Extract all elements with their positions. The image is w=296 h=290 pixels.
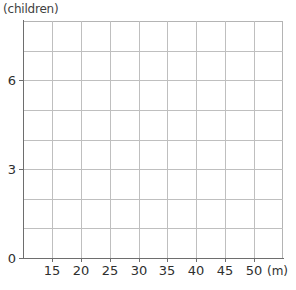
x-axis-line <box>22 258 284 259</box>
y-axis-tick <box>19 80 23 81</box>
y-axis-tick <box>19 169 23 170</box>
x-axis-tick-label: 15 <box>37 264 67 277</box>
plot-top-border <box>23 21 283 22</box>
gridline-horizontal <box>23 228 283 229</box>
gridline-horizontal <box>23 51 283 52</box>
x-axis-tick <box>167 258 168 262</box>
gridline-horizontal <box>23 199 283 200</box>
y-axis-unit-label: (children) <box>3 2 59 16</box>
grid-chart: (children) 036 1520253035404550 (m) <box>0 0 296 290</box>
x-axis-tick <box>81 258 82 262</box>
x-axis-tick <box>196 258 197 262</box>
x-axis-tick-label: 50 <box>239 264 269 277</box>
x-axis-tick <box>139 258 140 262</box>
y-axis-tick-label: 0 <box>0 252 16 265</box>
x-axis-tick <box>254 258 255 262</box>
x-axis-tick <box>110 258 111 262</box>
y-axis-tick-label: 3 <box>0 163 16 176</box>
gridline-horizontal <box>23 140 283 141</box>
gridline-horizontal <box>23 110 283 111</box>
x-axis-tick-label: 40 <box>181 264 211 277</box>
gridline-horizontal <box>23 169 283 170</box>
y-axis-line <box>23 20 24 259</box>
x-axis-tick-label: 45 <box>210 264 240 277</box>
gridline-horizontal <box>23 80 283 81</box>
x-axis-tick-label: 30 <box>124 264 154 277</box>
y-axis-tick-label: 6 <box>0 74 16 87</box>
x-axis-tick <box>225 258 226 262</box>
x-axis-tick-label: 20 <box>66 264 96 277</box>
y-axis-tick <box>19 258 23 259</box>
x-axis-tick <box>52 258 53 262</box>
x-axis-tick-label: 25 <box>95 264 125 277</box>
x-axis-unit-label: (m) <box>267 265 288 277</box>
plot-area[interactable] <box>23 21 283 258</box>
x-axis-tick-label: 35 <box>152 264 182 277</box>
